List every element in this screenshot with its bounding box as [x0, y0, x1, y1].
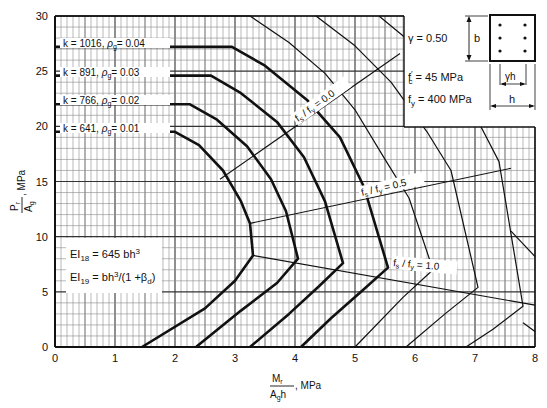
y-axis-ticks: 051015202530: [36, 10, 48, 353]
y-axis-title: Pr Ag , MPa: [9, 169, 36, 213]
y-tick-label: 25: [36, 65, 48, 77]
label-k-891: k = 891, ρg= 0.03: [63, 67, 140, 80]
gamma-value: γ = 0.50: [408, 32, 447, 44]
svg-text:Agh: Agh: [270, 389, 286, 402]
x-axis-ticks: 012345678: [52, 352, 538, 364]
svg-text:Pr: Pr: [9, 201, 21, 211]
x-tick-label: 7: [472, 352, 478, 364]
x-tick-label: 1: [112, 352, 118, 364]
y-tick-label: 5: [42, 286, 48, 298]
y-tick-label: 30: [36, 10, 48, 22]
inset-background: [404, 0, 547, 127]
label-fsfy-10: fs / fy = 1.0: [393, 257, 441, 274]
y-tick-label: 10: [36, 231, 48, 243]
x-tick-label: 8: [532, 352, 538, 364]
x-tick-label: 6: [412, 352, 418, 364]
x-tick-label: 4: [292, 352, 298, 364]
x-axis-title: Mr Agh , MPa: [270, 373, 322, 402]
label-k-641: k = 641, ρg= 0.01: [63, 123, 140, 136]
y-tick-label: 0: [42, 341, 48, 353]
svg-text:Mr: Mr: [272, 373, 283, 385]
dim-h-label: h: [509, 93, 515, 105]
label-k-766: k = 766, ρg= 0.02: [63, 95, 140, 108]
x-tick-label: 0: [52, 352, 58, 364]
y-tick-label: 15: [36, 176, 48, 188]
x-tick-label: 3: [232, 352, 238, 364]
x-tick-label: 2: [172, 352, 178, 364]
x-tick-label: 5: [352, 352, 358, 364]
y-tick-label: 20: [36, 120, 48, 132]
interaction-diagram-chart: 012345678 051015202530 k = 1016, ρg= 0.0…: [0, 0, 547, 408]
svg-text:, MPa: , MPa: [16, 169, 27, 196]
dim-b-label: b: [474, 32, 480, 44]
svg-text:, MPa: , MPa: [295, 380, 322, 391]
svg-text:Ag: Ag: [23, 201, 36, 212]
dim-gamma-h-label: γh: [505, 71, 516, 82]
